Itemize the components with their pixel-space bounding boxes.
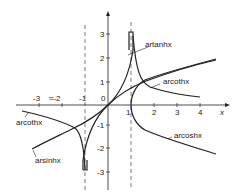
leader-arcosh [168, 137, 172, 139]
x-tick-label: -3 [33, 94, 41, 103]
y-axis-arrow-icon [106, 11, 110, 16]
label-arcoth-left: arcothx [16, 118, 42, 127]
y-tick-label: -2 [97, 144, 105, 153]
ticks [39, 34, 200, 172]
y-tick-label: -3 [97, 168, 105, 177]
y-tick-label: 3 [100, 30, 105, 39]
y-tick-label: 1 [100, 78, 105, 87]
inverse-hyperbolic-chart: -3 ≈-2 -1 1 2 3 4 x 3 2 1 0 -1 -2 -3 art… [0, 0, 237, 195]
label-artanh: artanhx [145, 40, 172, 49]
x-tick-label: ≈-2 [49, 94, 61, 103]
y-tick-label: 2 [100, 54, 105, 63]
x-axis-label: x [219, 108, 225, 117]
leader-arcoth-right [150, 84, 160, 88]
label-arcoth-right: arcothx [163, 77, 189, 86]
x-axis-arrow-icon [225, 103, 230, 107]
y-tick-label: 0 [101, 94, 106, 103]
x-tick-label: 4 [198, 108, 203, 117]
x-tick-label: 1 [126, 108, 131, 117]
x-tick-label: 3 [175, 108, 180, 117]
label-arcosh: arcoshx [174, 131, 202, 140]
leader-arcoth-left [25, 113, 28, 117]
y-tick-label: -1 [97, 121, 105, 130]
x-tick-label: -1 [79, 94, 87, 103]
label-arsinh: arsinhx [35, 156, 61, 165]
x-tick-label: 2 [152, 108, 157, 117]
